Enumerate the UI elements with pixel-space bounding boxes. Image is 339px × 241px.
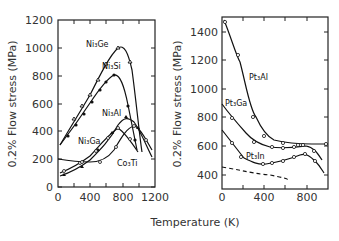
label-pt3ga: Pt₃Ga — [225, 99, 247, 108]
right-ytick-800: 800 — [197, 111, 218, 124]
markers-pt3ga — [230, 116, 315, 152]
curve-reference-dashed — [222, 167, 288, 180]
figure: 0 200 400 600 800 1000 1200 0 400 800 12… — [0, 0, 339, 241]
left-ytick-600: 600 — [32, 98, 53, 111]
right-y-axis-title: 0.2% Flow stress (MPa) — [171, 40, 184, 167]
label-pt3al: Pt₃Al — [249, 73, 268, 82]
left-panel: 0 200 400 600 800 1000 1200 0 400 800 12… — [6, 14, 169, 204]
label-ni3al: Ni₃Al — [102, 109, 121, 118]
right-panel: 400 600 800 1000 1200 1400 0 400 800 0.2… — [171, 17, 328, 204]
right-ytick-1400: 1400 — [190, 26, 218, 39]
right-xtick-0: 0 — [219, 191, 226, 204]
right-ytick-400: 400 — [197, 169, 218, 182]
right-ytick-600: 600 — [197, 140, 218, 153]
left-y-axis-title: 0.2% Flow stress (MPa) — [6, 40, 19, 167]
curve-pt3in — [222, 130, 324, 173]
left-xtick-400: 400 — [80, 191, 101, 204]
curve-pt3ga — [222, 104, 322, 160]
left-xtick-0: 0 — [55, 191, 62, 204]
label-pt3in: Pt₃In — [246, 152, 265, 161]
label-ni3ga: Ni₃Ga — [78, 137, 101, 146]
right-xtick-400: 400 — [254, 191, 275, 204]
left-xtick-800: 800 — [113, 191, 134, 204]
markers-pt3al — [223, 20, 327, 146]
x-axis-title: Temperature (K) — [150, 216, 240, 229]
left-xtick-1200: 1200 — [141, 191, 169, 204]
left-ytick-0: 0 — [46, 181, 53, 194]
left-ytick-400: 400 — [32, 125, 53, 138]
left-ytick-800: 800 — [32, 70, 53, 83]
left-ytick-1000: 1000 — [25, 42, 53, 55]
label-ni3ge: Ni₃Ge — [86, 40, 109, 49]
label-co3ti: Co₃Ti — [117, 159, 138, 168]
left-ytick-1200: 1200 — [25, 14, 53, 27]
right-xtick-800: 800 — [297, 191, 318, 204]
left-ytick-200: 200 — [32, 153, 53, 166]
right-ytick-1000: 1000 — [190, 83, 218, 96]
right-ytick-1200: 1200 — [190, 54, 218, 67]
right-x-ticks — [243, 17, 307, 189]
label-ni3si: Ni₃Si — [102, 62, 121, 71]
